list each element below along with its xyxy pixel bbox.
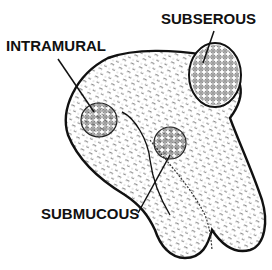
submucous-fibroid <box>154 127 186 159</box>
subserous-label: SUBSEROUS <box>161 10 256 27</box>
subserous-fibroid <box>189 43 241 107</box>
intramural-fibroid <box>81 103 117 137</box>
submucous-label: SUBMUCOUS <box>41 205 139 222</box>
intramural-label: INTRAMURAL <box>6 37 106 54</box>
